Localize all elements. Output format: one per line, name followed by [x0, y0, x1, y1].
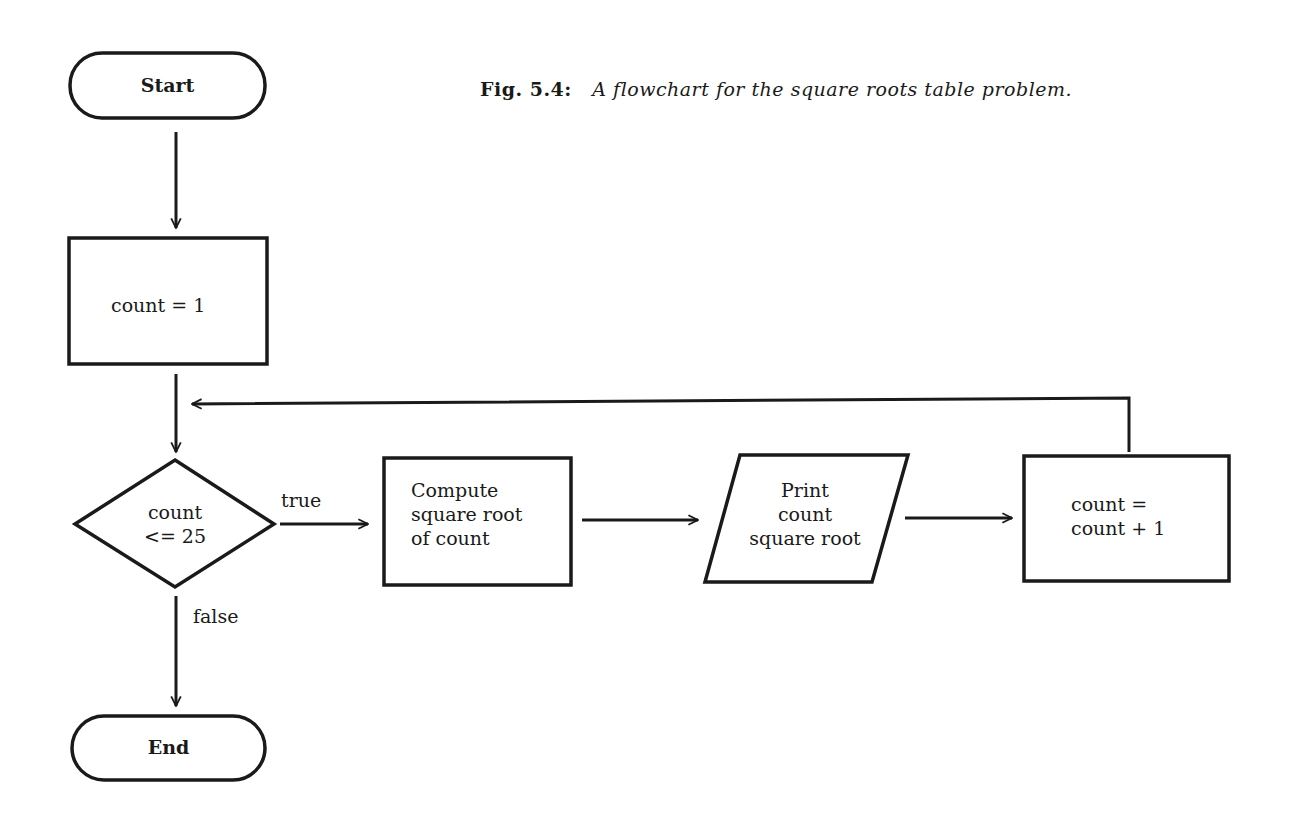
print-label-line3: square root	[730, 526, 880, 551]
compute-label-line2: square root	[411, 502, 522, 527]
false-edge-label: false	[193, 604, 238, 629]
figure-caption: Fig. 5.4: A flowchart for the square roo…	[480, 78, 1072, 100]
true-edge-label: true	[281, 488, 321, 513]
increment-label-line1: count =	[1071, 492, 1147, 517]
print-label-line1: Print	[730, 478, 880, 503]
compute-label-line3: of count	[411, 526, 490, 551]
print-label-line2: count	[730, 502, 880, 527]
init-label: count = 1	[111, 293, 205, 318]
start-label: Start	[70, 73, 265, 98]
flowchart-canvas	[0, 0, 1293, 815]
arrow-loop-back	[192, 398, 1129, 452]
figure-number: Fig. 5.4:	[480, 78, 572, 100]
end-label: End	[72, 735, 265, 760]
decision-label-line1: count	[115, 500, 235, 525]
increment-label-line2: count + 1	[1071, 516, 1165, 541]
figure-caption-text: A flowchart for the square roots table p…	[592, 78, 1072, 100]
compute-label-line1: Compute	[411, 478, 498, 503]
decision-label-line2: <= 25	[115, 524, 235, 549]
